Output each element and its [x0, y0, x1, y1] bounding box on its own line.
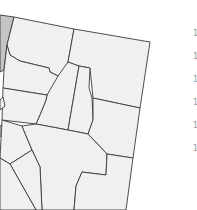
legend-item: 1	[193, 99, 197, 122]
legend-item: 1	[193, 122, 197, 145]
legend-item: 1	[193, 30, 197, 53]
legend-item: 1	[193, 53, 197, 76]
county-map	[0, 0, 197, 210]
map-legend: 1 1 1 1 1 1	[193, 30, 197, 168]
legend-item: 1	[193, 145, 197, 168]
legend-item: 1	[193, 76, 197, 99]
